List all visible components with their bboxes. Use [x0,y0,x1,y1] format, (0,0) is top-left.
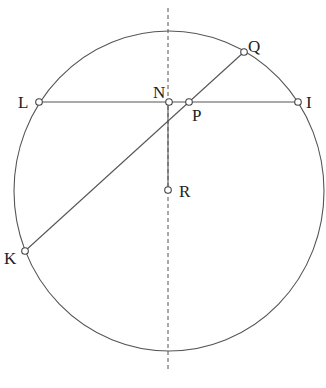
point-Q [241,49,248,56]
point-P [186,99,193,106]
label-L: L [18,93,28,112]
label-P: P [192,106,201,125]
point-N [166,99,173,106]
point-I [295,99,302,106]
label-K: K [4,249,17,268]
label-I: I [306,93,312,112]
point-R [165,187,172,194]
label-N: N [153,83,165,102]
label-Q: Q [248,37,260,56]
point-L [36,99,43,106]
geometry-diagram: L N P I Q K R [0,0,326,388]
chord-KQ [25,52,244,251]
label-R: R [179,182,191,201]
point-K [22,248,29,255]
